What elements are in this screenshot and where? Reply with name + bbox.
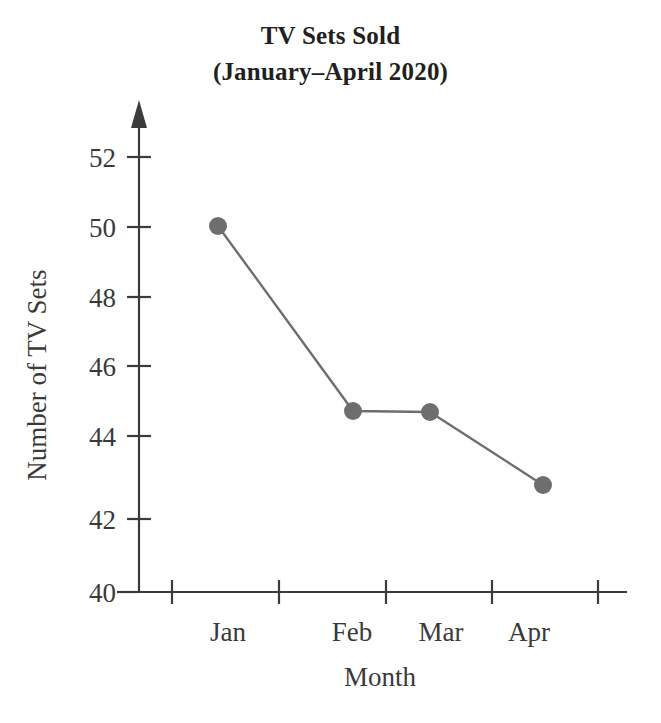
y-tick-label-48: 48 xyxy=(89,283,116,313)
y-axis-title: Number of TV Sets xyxy=(22,269,52,480)
series-line-path xyxy=(218,226,543,485)
x-axis-title: Month xyxy=(344,662,417,692)
y-tick-label-46: 46 xyxy=(89,352,116,382)
x-label-apr: Apr xyxy=(508,617,550,647)
y-axis-arrow-icon xyxy=(131,100,147,128)
y-tick-label-40: 40 xyxy=(89,578,116,608)
y-tick-label-42: 42 xyxy=(89,505,116,535)
y-tick-marks xyxy=(117,157,151,592)
line-chart-plot: 52 50 48 46 44 42 40 Jan Feb Mar Apr Mon… xyxy=(0,0,661,723)
x-category-labels: Jan Feb Mar Apr xyxy=(210,617,550,647)
y-tick-label-44: 44 xyxy=(89,422,117,452)
y-tick-label-52: 52 xyxy=(89,143,116,173)
y-tick-label-50: 50 xyxy=(89,213,116,243)
data-point-jan[interactable] xyxy=(209,217,227,235)
x-label-jan: Jan xyxy=(210,617,246,647)
y-tick-labels: 52 50 48 46 44 42 40 xyxy=(89,143,117,608)
data-point-feb[interactable] xyxy=(344,402,362,420)
chart-page: TV Sets Sold (January–April 2020) 52 50 … xyxy=(0,0,661,723)
data-point-apr[interactable] xyxy=(534,476,552,494)
data-series-tv-sets xyxy=(209,217,552,494)
data-point-mar[interactable] xyxy=(421,403,439,421)
x-label-mar: Mar xyxy=(419,617,464,647)
x-label-feb: Feb xyxy=(332,617,373,647)
